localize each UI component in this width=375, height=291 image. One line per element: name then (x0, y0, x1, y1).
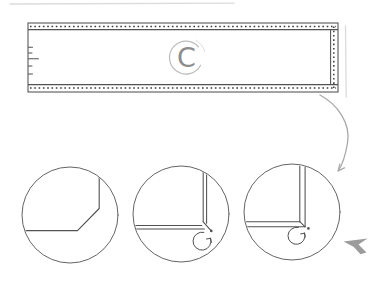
step1-corner-trim (22, 166, 99, 231)
scan-artifact-top-edge (10, 3, 234, 4)
fold-rotation-arrow-icon (193, 232, 211, 250)
pivot-dot (307, 227, 310, 230)
cursor-arrowhead-icon (344, 239, 368, 255)
left-edge-notch-ticks (29, 47, 39, 74)
detail-circle-step1 (22, 167, 118, 263)
piece-label-group: C (170, 40, 205, 74)
detail-circle-step2 (133, 166, 229, 262)
flow-arrow-icon (320, 95, 348, 171)
step2-first-fold (130, 162, 211, 230)
pivot-dot (210, 230, 213, 233)
detail-circle-step3 (244, 164, 340, 260)
scan-artifact-right-edge (346, 26, 347, 97)
piece-label: C (177, 42, 196, 73)
detail-circles (22, 164, 340, 263)
sewing-diagram: C (0, 0, 375, 291)
sewing-instruction-page: C (0, 0, 375, 291)
step2-fold-arrow (193, 230, 213, 251)
flow-arrow-curve (320, 95, 348, 171)
fold-rotation-arrow-icon (288, 227, 305, 244)
mitre-seam (300, 222, 305, 227)
trimmed-corner-lines (22, 166, 99, 231)
step3-fold-arrow (288, 227, 310, 244)
